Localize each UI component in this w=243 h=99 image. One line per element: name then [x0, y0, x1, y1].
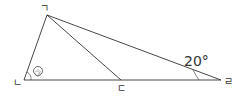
vertex-label-right: ㄹ: [224, 76, 233, 87]
angle-value-label: 20°: [184, 53, 209, 69]
segment-giyeok-rieul: [47, 15, 221, 80]
vertex-label-top: ㄱ: [40, 3, 49, 14]
triangle-diagram: ㄱ ㄴ ㄷ ㄹ ㉠ 20°: [0, 0, 243, 99]
segment-giyeok-digeut: [47, 15, 121, 80]
angle-marker-label: ㉠: [35, 69, 41, 77]
vertex-label-bottom-middle: ㄷ: [117, 83, 126, 94]
vertex-label-bottom-left: ㄴ: [13, 77, 22, 88]
angle-arc-nieun: [27, 72, 31, 80]
